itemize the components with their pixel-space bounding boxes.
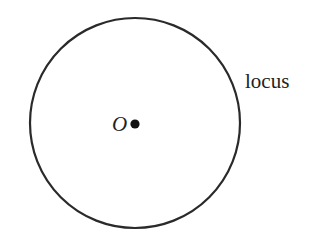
- center-point-dot: [130, 119, 139, 128]
- locus-diagram: O locus: [0, 0, 312, 247]
- center-point-label: O: [112, 112, 127, 136]
- locus-label: locus: [245, 69, 289, 93]
